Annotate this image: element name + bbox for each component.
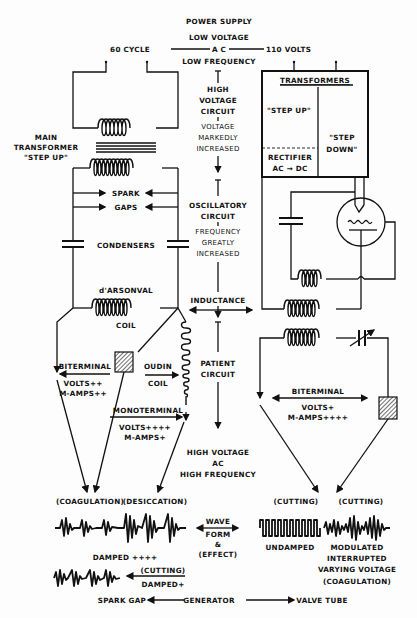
cutting-modulated-label: (CUTTING)	[339, 497, 384, 506]
power-supply-title: POWER SUPPLY	[186, 17, 253, 26]
damped-cutting-waveform-icon	[54, 570, 120, 586]
valve-tube-circuit: TRANSFORMERS "STEP UP" "STEP DOWN" RECTI…	[260, 61, 397, 492]
interrupted-label: INTERRUPTED	[327, 554, 387, 563]
grid-coil-icon	[298, 270, 321, 287]
form-label: FORM	[206, 530, 231, 539]
primary-coil-icon	[98, 119, 130, 136]
darsonval-coil-icon	[92, 299, 131, 316]
mamps-pp-label: M-AMPS++	[59, 389, 107, 398]
electrosurgery-diagram: POWER SUPPLY LOW VOLTAGE 60 CYCLE A C 11…	[0, 0, 417, 618]
valve-tube-label: VALVE TUBE	[296, 596, 347, 605]
oscillator-coil-icon	[284, 300, 319, 317]
spark-gap-label: SPARK GAP	[98, 596, 146, 605]
secondary-coil-icon	[90, 159, 133, 176]
ac-label: A C	[212, 45, 226, 54]
low-frequency-label: LOW FREQUENCY	[182, 57, 256, 66]
transformers-label: TRANSFORMERS	[280, 76, 350, 85]
damped-waveform-icon	[55, 514, 186, 542]
undamped-waveform-icon	[260, 520, 320, 536]
gaps-label: GAPS	[114, 203, 137, 212]
generator-label: GENERATOR	[183, 596, 235, 605]
cycle-label: 60 CYCLE	[110, 45, 150, 54]
oscillatory-label: OSCILLATORY	[189, 201, 248, 210]
effect-label: (EFFECT)	[199, 550, 238, 559]
volts-label: 110 VOLTS	[266, 45, 311, 54]
oudin-coil-label: COIL	[148, 379, 168, 388]
desiccation-label: (DESICCATION)	[123, 497, 187, 506]
volts-pp-label: VOLTS++	[63, 379, 102, 388]
transformer-core	[96, 143, 156, 152]
varying-voltage-label: VARYING VOLTAGE	[318, 565, 396, 574]
modulated-label: MODULATED	[330, 543, 383, 552]
biterminal-label-left: BITERMINAL	[59, 362, 112, 371]
circuit2-label: CIRCUIT	[201, 212, 235, 221]
hv-label: HIGH VOLTAGE	[187, 448, 249, 457]
volts-p-label: VOLTS+	[302, 403, 335, 412]
monoterminal-label: MONOTERMINAL	[113, 406, 183, 415]
step-up-right-label: "STEP UP"	[267, 106, 311, 115]
low-voltage-label: LOW VOLTAGE	[189, 33, 249, 42]
spark-gap-circuit: MAIN TRANSFORMER "STEP UP" SPARK GAPS CO…	[14, 61, 191, 492]
darsonval-label: d'ARSONVAL	[99, 286, 153, 295]
hv-ac-label: AC	[212, 459, 223, 468]
voltage2-label: VOLTAGE	[201, 123, 234, 131]
electrode-pad-right-icon	[379, 397, 397, 419]
patient-label: PATIENT	[200, 359, 235, 368]
rectifier-label: RECTIFIER	[268, 153, 312, 162]
main-transformer-label: MAIN	[35, 133, 58, 142]
down-label: DOWN"	[326, 145, 357, 154]
hv-hf-label: HIGH FREQUENCY	[180, 470, 257, 479]
mamps-p-label: M-AMPS+	[124, 433, 165, 442]
oudin-label: OUDIN	[144, 362, 172, 371]
condensers-label: CONDENSERS	[97, 241, 155, 250]
power-supply-header: POWER SUPPLY LOW VOLTAGE 60 CYCLE A C 11…	[110, 17, 311, 66]
transformer-label: TRANSFORMER	[14, 143, 79, 152]
waveform-section: (COAGULATION) (DESICCATION) (CUTTING) (C…	[54, 497, 396, 589]
damped1-label: DAMPED+	[142, 580, 185, 589]
ac-dc-label: AC → DC	[272, 164, 307, 173]
volts-pppp-label: VOLTS++++	[119, 423, 171, 432]
circuit3-label: CIRCUIT	[201, 370, 235, 379]
center-annotations: HIGH VOLTAGE CIRCUIT VOLTAGE MARKEDLY IN…	[180, 71, 257, 479]
inductance-label: INDUCTANCE	[191, 296, 246, 305]
coagulation-label: (COAGULATION)	[56, 497, 124, 506]
cutting-undamped-label: (CUTTING)	[274, 497, 319, 506]
coagulation2-label: (COAGULATION)	[323, 577, 391, 586]
undamped-label: UNDAMPED	[265, 543, 314, 552]
oudin-coil-icon	[182, 322, 191, 405]
damped4-label: DAMPED ++++	[93, 553, 158, 562]
generator-footer: SPARK GAP GENERATOR VALVE TUBE	[98, 596, 348, 605]
cutting-left-label: (CUTTING)	[141, 566, 186, 575]
voltage-label: VOLTAGE	[199, 96, 237, 105]
spark-label: SPARK	[112, 189, 140, 198]
biterminal-label-right: BITERMINAL	[292, 387, 345, 396]
frequency-label: FREQUENCY	[195, 228, 241, 236]
mamps-pppp-label: M-AMPS++++	[288, 413, 348, 422]
ampersand-label: &	[215, 540, 222, 549]
spark-gaps: SPARK GAPS	[73, 189, 178, 212]
increased-label: INCREASED	[196, 145, 239, 153]
modulated-waveform-icon	[324, 516, 390, 540]
coil-label: COIL	[116, 321, 136, 330]
wave-label: WAVE	[206, 517, 230, 526]
patient-coil-icon	[284, 329, 319, 346]
markedly-label: MARKEDLY	[198, 134, 238, 142]
greatly-label: GREATLY	[202, 239, 235, 247]
electrode-pad-icon	[115, 352, 133, 372]
high-label: HIGH	[207, 85, 229, 94]
increased2-label: INCREASED	[196, 250, 239, 258]
condensers: CONDENSERS	[62, 240, 189, 250]
step-up-label: "STEP UP"	[24, 153, 68, 162]
circuit-label: CIRCUIT	[201, 107, 235, 116]
step-label: "STEP	[329, 133, 355, 142]
